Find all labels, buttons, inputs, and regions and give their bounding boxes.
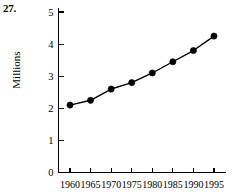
x-tick-label: 1985 [163,179,183,190]
x-tick-label: 1970 [101,179,121,190]
data-point-marker [170,59,176,65]
x-tick-label: 1960 [60,179,80,190]
line-chart: 01234519601965197019751980198519901995 [0,0,245,193]
data-point-marker [67,102,73,108]
data-point-marker [211,33,217,39]
y-tick-label: 1 [48,135,53,146]
x-tick-label: 1975 [122,179,142,190]
data-point-marker [108,86,114,92]
data-point-marker [190,47,196,53]
chart-axes [59,8,227,173]
data-point-marker [87,97,93,103]
x-tick-label: 1990 [183,179,203,190]
x-tick-label: 1995 [204,179,224,190]
y-tick-label: 3 [48,71,53,82]
x-tick-label: 1965 [81,179,101,190]
y-tick-label: 4 [48,39,54,50]
figure-container: 27. Millions 012345196019651970197519801… [0,0,245,193]
data-point-marker [149,70,155,76]
data-line [70,36,214,105]
y-tick-label: 2 [48,103,53,114]
y-tick-label: 5 [48,7,53,18]
data-point-marker [129,80,135,86]
x-tick-label: 1980 [142,179,162,190]
y-tick-label: 0 [48,167,53,178]
